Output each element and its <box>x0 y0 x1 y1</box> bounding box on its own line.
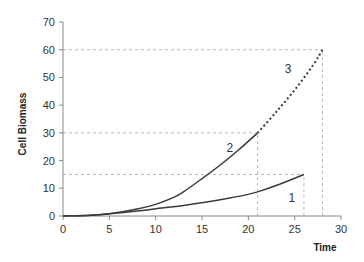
y-tick-label: 0 <box>49 210 55 222</box>
curve-label-3: 3 <box>285 62 292 76</box>
x-tick-label: 30 <box>335 223 347 235</box>
cell-biomass-chart: 010203040506070051015202530 123 Cell Bio… <box>0 0 364 262</box>
x-tick-label: 15 <box>196 223 208 235</box>
y-tick-label: 40 <box>43 99 55 111</box>
curve-labels: 123 <box>226 62 295 205</box>
y-tick-label: 20 <box>43 155 55 167</box>
x-axis-title: Time <box>313 242 337 253</box>
y-tick-label: 70 <box>43 16 55 28</box>
reference-lines <box>63 50 322 216</box>
y-tick-label: 50 <box>43 71 55 83</box>
y-axis-title: Cell Biomass <box>17 92 28 155</box>
x-tick-label: 20 <box>242 223 254 235</box>
curve-label-1: 1 <box>289 191 296 205</box>
y-tick-label: 60 <box>43 44 55 56</box>
x-tick-label: 25 <box>289 223 301 235</box>
axes: 010203040506070051015202530 <box>43 16 347 235</box>
x-tick-label: 5 <box>106 223 112 235</box>
y-tick-label: 10 <box>43 182 55 194</box>
x-tick-label: 10 <box>150 223 162 235</box>
y-tick-label: 30 <box>43 127 55 139</box>
series-1-curve <box>63 174 304 216</box>
x-tick-label: 0 <box>60 223 66 235</box>
curve-label-2: 2 <box>226 141 233 155</box>
